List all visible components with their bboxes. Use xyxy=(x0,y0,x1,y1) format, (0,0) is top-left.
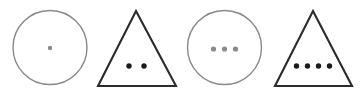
dot-triangle-four-dots-4 xyxy=(327,63,332,68)
dot-triangle-two-dots-2 xyxy=(141,63,146,68)
figure-canvas xyxy=(0,0,364,92)
dot-circle-three-dots-2 xyxy=(222,46,227,51)
dot-triangle-four-dots-1 xyxy=(294,63,299,68)
dot-triangle-four-dots-3 xyxy=(316,63,321,68)
dot-circle-one-dot-1 xyxy=(48,46,52,50)
shape-sequence-figure xyxy=(0,0,364,92)
dot-triangle-two-dots-1 xyxy=(126,63,131,68)
dot-circle-three-dots-1 xyxy=(211,46,216,51)
figure-background xyxy=(0,0,364,92)
dot-triangle-four-dots-2 xyxy=(305,63,310,68)
dot-circle-three-dots-3 xyxy=(233,46,238,51)
